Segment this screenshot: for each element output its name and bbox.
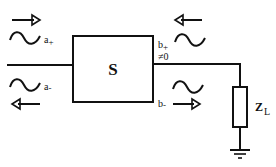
- load-label: ZL: [255, 100, 270, 117]
- arrow-left-icon: [175, 15, 202, 25]
- output-wire: [153, 64, 240, 87]
- sine-wave-icon: [173, 81, 203, 93]
- wave-label-a-plus: a+: [44, 34, 54, 47]
- sine-wave-icon: [175, 34, 205, 46]
- load-impedance: [233, 87, 247, 127]
- wave-label-a-minus: a-: [44, 81, 51, 93]
- ground-icon: [230, 150, 250, 158]
- arrow-right-icon: [12, 15, 40, 25]
- sine-wave-icon: [10, 32, 40, 44]
- block-label: S: [108, 60, 117, 79]
- arrow-right-icon: [173, 99, 200, 109]
- arrow-left-icon: [12, 99, 40, 109]
- nonzero-annotation: ≠0: [158, 51, 169, 62]
- wave-label-b-minus: b-: [158, 98, 166, 110]
- network-diagram: S a+ a- b+ ≠0 b- ZL: [0, 0, 276, 167]
- sine-wave-icon: [10, 79, 40, 91]
